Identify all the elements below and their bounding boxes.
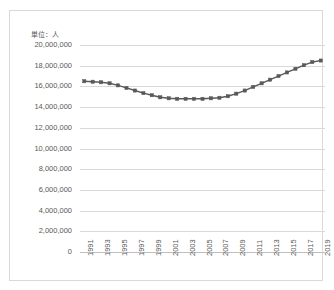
data-point [268,78,271,81]
series-line [84,61,321,99]
x-axis-tick-label: 2007 [222,239,230,256]
y-axis-tick-label: 20,000,000 [34,41,72,49]
data-point [176,97,179,100]
data-point [116,84,119,87]
x-axis-tick-label: 2009 [239,239,247,256]
x-axis-tick-label: 2015 [290,239,298,256]
y-axis-tick-label: 18,000,000 [34,62,72,70]
data-series [80,45,325,252]
data-point [209,97,212,100]
chart-frame: 単位：人 20,000,00018,000,00016,000,00014,00… [9,10,323,281]
y-axis-tick-label: 2,000,000 [39,227,72,235]
y-axis-tick-label: 12,000,000 [34,124,72,132]
data-point [201,97,204,100]
data-point [226,95,229,98]
data-point [277,74,280,77]
y-axis-tick-label: 6,000,000 [39,186,72,194]
y-axis-tick-label: 14,000,000 [34,103,72,111]
data-point [252,85,255,88]
data-point [142,92,145,95]
y-axis-tick-label: 4,000,000 [39,207,72,215]
data-point [159,96,162,99]
x-axis-tick-label: 1991 [87,239,95,256]
data-point [167,97,170,100]
data-point [285,71,288,74]
data-point [311,60,314,63]
data-point [133,89,136,92]
y-axis-tick-label: 16,000,000 [34,82,72,90]
plot-area [80,45,325,252]
data-point [83,80,86,83]
y-axis-labels: 20,000,00018,000,00016,000,00014,000,000… [10,45,76,252]
x-axis-tick-label: 1993 [104,239,112,256]
x-axis-tick-label: 2013 [273,239,281,256]
x-axis-tick-label: 2003 [189,239,197,256]
data-point [150,94,153,97]
unit-label: 単位：人 [31,29,59,39]
series-markers [83,59,323,101]
x-axis-labels: 1991199319951997199920012003200520072009… [80,255,325,289]
y-axis-tick-label: 0 [68,248,72,256]
data-point [184,97,187,100]
data-point [91,80,94,83]
x-axis-tick-label: 2019 [324,239,332,256]
x-axis-tick-label: 1997 [138,239,146,256]
data-point [302,64,305,67]
data-point [294,67,297,70]
x-axis-tick-label: 2017 [307,239,315,256]
x-axis-tick-label: 2011 [256,240,264,256]
x-axis-tick-label: 2001 [172,239,180,256]
data-point [218,96,221,99]
x-axis-tick-label: 1995 [121,239,129,256]
data-point [100,81,103,84]
data-point [192,97,195,100]
data-point [243,89,246,92]
data-point [319,59,322,62]
y-axis-tick-label: 10,000,000 [34,145,72,153]
data-point [108,82,111,85]
x-axis-tick-label: 1999 [155,239,163,256]
data-point [235,92,238,95]
y-axis-tick-label: 8,000,000 [39,165,72,173]
data-point [125,86,128,89]
x-axis-tick-label: 2005 [206,239,214,256]
data-point [260,82,263,85]
